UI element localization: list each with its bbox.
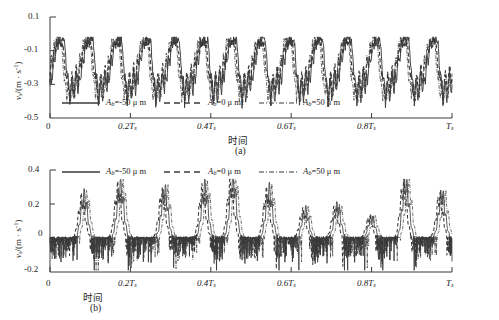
figure-container: vs/(m · s-1) 0.1 -0.1 -0.3 -0.5 0 0.2Ts … <box>0 0 499 320</box>
panel-a-plot-svg <box>0 0 499 160</box>
chart-panel-a: vs/(m · s-1) 0.1 -0.1 -0.3 -0.5 0 0.2Ts … <box>0 0 499 160</box>
chart-panel-b: vs/(m · s-1) 0.4 0.2 0 -0.2 0 0.2Ts 0.4T… <box>0 160 499 320</box>
panel-b-plot-svg <box>0 160 499 320</box>
